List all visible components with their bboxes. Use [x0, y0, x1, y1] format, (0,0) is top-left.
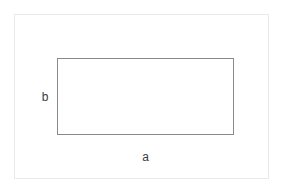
height-dimension-label: b	[39, 91, 51, 103]
figure-canvas: b a	[0, 0, 284, 191]
width-dimension-label: a	[57, 151, 234, 163]
rectangle-shape	[57, 58, 234, 135]
